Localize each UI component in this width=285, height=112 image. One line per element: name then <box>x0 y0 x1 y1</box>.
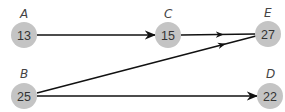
edge-c-e <box>181 34 255 35</box>
node-d: D 22 <box>257 67 283 109</box>
node-b-label: B <box>20 67 28 81</box>
node-e-label: E <box>264 6 272 20</box>
node-e: E 27 <box>255 6 281 47</box>
node-a-label: A <box>19 7 28 21</box>
node-a-value: 13 <box>17 29 31 43</box>
node-d-label: D <box>266 67 275 81</box>
node-a: A 13 <box>11 7 37 48</box>
node-e-value: 27 <box>261 28 275 42</box>
edges <box>37 34 257 96</box>
graph-diagram: A 13 C 15 E 27 B 25 D 22 <box>0 0 285 112</box>
node-b-value: 25 <box>17 90 31 104</box>
node-b: B 25 <box>11 67 37 109</box>
node-c-value: 15 <box>161 29 175 43</box>
node-c-label: C <box>164 7 173 21</box>
node-d-value: 22 <box>263 90 277 104</box>
node-c: C 15 <box>155 7 181 48</box>
edge-b-e <box>37 36 256 93</box>
